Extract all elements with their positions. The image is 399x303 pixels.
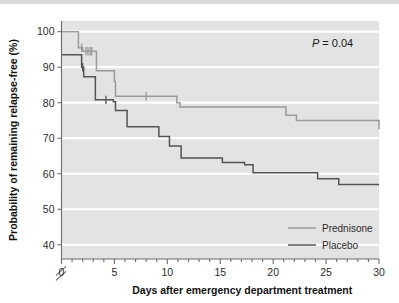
legend-label-placebo: Placebo (322, 240, 359, 251)
p-symbol: P (312, 37, 320, 49)
y-tick-label: 40 (43, 239, 55, 251)
y-axis-title: Probability of remaining relapse-free (%… (7, 39, 19, 241)
figure-container: 405060708090100051015202530Days after em… (0, 0, 399, 303)
x-tick-label: 30 (373, 266, 385, 278)
top-border-band (0, 0, 399, 4)
x-axis-title: Days after emergency department treatmen… (132, 284, 353, 296)
y-tick-label: 50 (43, 203, 55, 215)
p-value-number: = 0.04 (322, 37, 353, 49)
x-tick-label: 0 (59, 266, 65, 278)
y-axis-ticks: 405060708090100 (37, 25, 62, 250)
y-tick-label: 90 (43, 61, 55, 73)
x-tick-label: 15 (214, 266, 226, 278)
x-tick-label: 25 (320, 266, 332, 278)
p-value-annotation: P= 0.04 (312, 37, 353, 49)
x-tick-label: 10 (161, 266, 173, 278)
survival-curve-chart: 405060708090100051015202530Days after em… (0, 0, 399, 303)
y-tick-label: 100 (37, 25, 55, 37)
x-tick-label: 20 (267, 266, 279, 278)
p-value-text: P= 0.04 (312, 37, 353, 49)
x-axis-ticks: 051015202530 (59, 259, 385, 278)
y-tick-label: 80 (43, 97, 55, 109)
legend-label-prednisone: Prednisone (322, 223, 373, 234)
y-tick-label: 70 (43, 132, 55, 144)
y-tick-label: 60 (43, 168, 55, 180)
x-tick-label: 5 (111, 266, 117, 278)
